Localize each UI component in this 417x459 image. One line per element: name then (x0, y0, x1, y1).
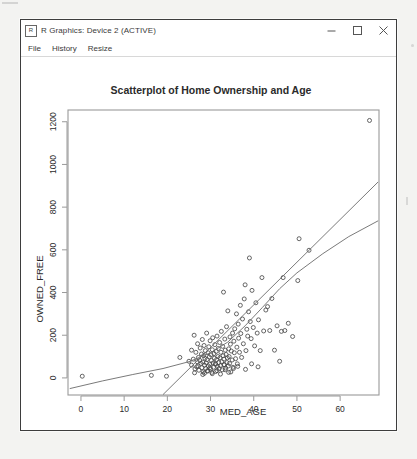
data-point (239, 332, 243, 336)
data-point (223, 337, 227, 341)
plot-canvas: Scatterplot of Home Ownership and Age 01… (21, 57, 394, 429)
data-point (202, 343, 206, 347)
r-graphics-window: R R Graphics: Device 2 (ACTIVE) File His… (20, 19, 397, 431)
window-titlebar[interactable]: R R Graphics: Device 2 (ACTIVE) (21, 20, 396, 41)
r-graphics-icon: R (25, 25, 37, 37)
data-point (244, 367, 248, 371)
data-point (247, 256, 251, 260)
maximize-icon[interactable] (344, 21, 370, 41)
data-point (286, 321, 290, 325)
data-point (243, 283, 247, 287)
scatterplot: Scatterplot of Home Ownership and Age 01… (21, 57, 394, 429)
plot-box (68, 110, 379, 395)
data-point (368, 118, 372, 122)
data-point (200, 337, 204, 341)
data-point (275, 324, 279, 328)
data-point (245, 327, 249, 331)
scan-artifact-top-left (2, 2, 18, 4)
linear-fit (163, 182, 378, 395)
x-tick-label: 50 (292, 404, 302, 414)
data-point (278, 359, 282, 363)
data-point (225, 325, 229, 329)
data-point (215, 334, 219, 338)
data-point (149, 373, 153, 377)
data-point (226, 309, 230, 313)
data-point (231, 331, 235, 335)
data-point (190, 348, 194, 352)
y-axis-label: OWNED_FREE (34, 255, 45, 322)
data-point (203, 349, 207, 353)
data-point (236, 322, 240, 326)
data-point (235, 345, 239, 349)
menu-item-history[interactable]: History (52, 44, 77, 53)
x-tick-label: 20 (163, 404, 173, 414)
data-point (256, 318, 260, 322)
data-point (266, 305, 270, 309)
data-point (297, 237, 301, 241)
data-point (250, 362, 254, 366)
data-point (258, 349, 262, 353)
y-tick-label: 600 (48, 242, 58, 256)
data-point (194, 350, 198, 354)
data-point (233, 327, 237, 331)
data-point (205, 331, 209, 335)
data-point (260, 276, 264, 280)
data-point (218, 372, 222, 376)
scan-artifact-right-top (411, 44, 414, 47)
data-point (255, 331, 259, 335)
data-point (80, 374, 84, 378)
data-point (219, 329, 223, 333)
y-tick-label: 800 (48, 200, 58, 214)
y-tick-label: 0 (48, 375, 58, 380)
data-point (198, 346, 202, 350)
data-point (178, 355, 182, 359)
y-tick-label: 400 (48, 285, 58, 299)
scan-artifact-right-mid (406, 197, 408, 205)
data-point (291, 335, 295, 339)
data-point (218, 340, 222, 344)
y-tick-label: 1200 (48, 112, 58, 131)
x-tick-label: 0 (79, 404, 84, 414)
window-controls (318, 21, 396, 41)
y-tick-label: 200 (48, 328, 58, 342)
menu-item-file[interactable]: File (28, 44, 41, 53)
data-point (251, 326, 255, 330)
data-point (237, 336, 241, 340)
smooth-fit (70, 221, 378, 389)
data-point (250, 288, 254, 292)
menu-item-resize[interactable]: Resize (88, 44, 112, 53)
data-point (242, 297, 246, 301)
minimize-icon[interactable] (318, 21, 344, 41)
axes (68, 110, 379, 395)
plot-title: Scatterplot of Home Ownership and Age (111, 84, 312, 96)
menubar: File History Resize (21, 41, 396, 57)
data-point (196, 342, 200, 346)
data-point (262, 329, 266, 333)
data-point (193, 371, 197, 375)
data-point (236, 364, 240, 368)
data-point (192, 333, 196, 337)
close-icon[interactable] (370, 21, 396, 41)
data-point (222, 290, 226, 294)
data-point (237, 350, 241, 354)
data-point (272, 348, 276, 352)
data-point (240, 355, 244, 359)
data-point (268, 329, 272, 333)
x-tick-label: 30 (206, 404, 216, 414)
window-title: R Graphics: Device 2 (ACTIVE) (41, 26, 156, 35)
y-tick-label: 1000 (48, 155, 58, 174)
data-point (234, 312, 238, 316)
data-point (256, 365, 260, 369)
data-point (164, 374, 168, 378)
data-point (238, 303, 242, 307)
data-point (196, 364, 200, 368)
x-tick-label: 10 (119, 404, 129, 414)
x-axis-label: MED_AGE (220, 406, 266, 417)
data-point (244, 349, 248, 353)
data-point (228, 342, 232, 346)
data-point (211, 336, 215, 340)
data-point (249, 337, 253, 341)
data-point (296, 279, 300, 283)
data-point (253, 344, 257, 348)
x-tick-label: 60 (335, 404, 345, 414)
